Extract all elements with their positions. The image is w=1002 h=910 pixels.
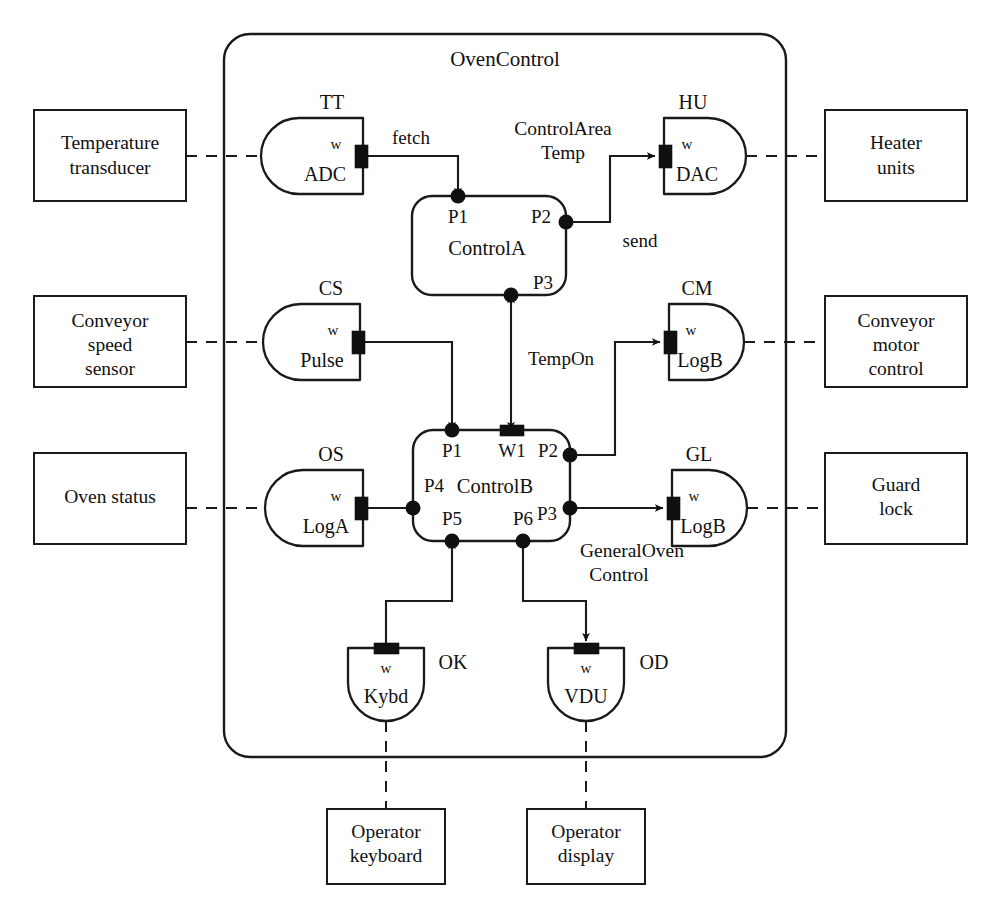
oven-control-diagram: OvenControl Temperature transducer Conve… xyxy=(0,0,1002,910)
port-p2-dot[interactable] xyxy=(563,448,578,463)
external-entity-label-line2: keyboard xyxy=(350,845,423,866)
connection-label-fetch: fetch xyxy=(392,127,430,148)
external-entity-label-line2: lock xyxy=(879,498,913,519)
external-entity-label-line1: Oven status xyxy=(64,486,156,507)
device-module-ok-kybd[interactable]: OK w Kybd xyxy=(348,643,468,721)
port-p2-dot[interactable] xyxy=(559,215,574,230)
control-object-name: ControlA xyxy=(448,237,526,259)
control-object-caption-line1: GeneralOven xyxy=(580,540,684,561)
connection-kybd-to-p5 xyxy=(386,541,452,645)
w-port-marker[interactable] xyxy=(374,643,399,654)
device-module-tt-adc[interactable]: TT w ADC xyxy=(261,91,368,194)
external-entity-heater-units: Heater units xyxy=(825,110,967,201)
system-boundary-label: OvenControl xyxy=(450,47,560,71)
control-object-caption-line2: Control xyxy=(589,564,649,585)
device-module-os-loga[interactable]: OS w LogA xyxy=(265,443,368,546)
device-module-name: LogB xyxy=(680,515,726,538)
device-module-tag: CM xyxy=(681,277,712,299)
port-p1-dot[interactable] xyxy=(451,189,466,204)
port-p5-label: P5 xyxy=(442,508,462,529)
device-module-od-vdu[interactable]: OD w VDU xyxy=(548,643,668,721)
port-p3-dot[interactable] xyxy=(563,501,578,516)
port-p6-label: P6 xyxy=(513,508,533,529)
external-entity-label-line2: display xyxy=(558,845,615,866)
device-module-tag: CS xyxy=(319,277,343,299)
connection-pulse-to-p1 xyxy=(360,342,452,430)
external-entity-label-line3: control xyxy=(868,358,924,379)
port-p6-dot[interactable] xyxy=(516,534,531,549)
device-module-tag: OS xyxy=(318,443,344,465)
w-port-label: w xyxy=(328,322,339,338)
w-port-label: w xyxy=(381,660,392,676)
w-port-label: w xyxy=(331,136,342,152)
external-entity-label-line1: Operator xyxy=(351,821,421,842)
device-module-gl-logb[interactable]: GL w LogB xyxy=(667,443,747,546)
port-p4-dot[interactable] xyxy=(406,501,421,516)
device-module-cm-logb[interactable]: CM w LogB xyxy=(664,277,744,380)
port-p3-label: P3 xyxy=(537,503,557,524)
control-object-caption-line2: Temp xyxy=(541,142,585,163)
w-port-marker[interactable] xyxy=(574,643,599,654)
port-p1-dot[interactable] xyxy=(445,423,460,438)
w-port-marker[interactable] xyxy=(659,145,672,168)
external-entity-label-line1: Conveyor xyxy=(858,310,935,331)
w-port-marker[interactable] xyxy=(667,497,680,520)
port-p2-label: P2 xyxy=(538,440,558,461)
w-port-label: w xyxy=(686,322,697,338)
external-entity-label-line3: sensor xyxy=(85,358,135,379)
port-p1-label: P1 xyxy=(442,440,462,461)
external-entity-box xyxy=(825,110,967,201)
external-entity-oven-status: Oven status xyxy=(34,453,186,544)
device-module-name: DAC xyxy=(676,163,718,185)
control-object-caption-line1: ControlArea xyxy=(514,118,612,139)
device-module-tag: TT xyxy=(320,91,344,113)
w-port-marker[interactable] xyxy=(355,497,368,520)
device-module-tag: OD xyxy=(640,651,669,673)
device-module-cs-pulse[interactable]: CS w Pulse xyxy=(263,277,365,380)
device-module-name: LogB xyxy=(677,349,723,372)
external-entity-temperature-transducer: Temperature transducer xyxy=(34,110,186,201)
connection-p6-to-vdu xyxy=(523,541,586,641)
connection-fetch xyxy=(363,156,458,196)
connection-label-send: send xyxy=(623,230,658,251)
w-port-marker[interactable] xyxy=(355,145,368,168)
w-port-label: w xyxy=(689,488,700,504)
external-entity-label-line1: Conveyor xyxy=(72,310,149,331)
external-entity-operator-keyboard: Operator keyboard xyxy=(327,809,445,884)
port-p5-dot[interactable] xyxy=(445,534,460,549)
device-module-name: LogA xyxy=(303,515,350,538)
w-port-marker[interactable] xyxy=(352,331,365,354)
external-entity-conveyor-motor-control: Conveyor motor control xyxy=(825,296,967,387)
w-port-label: w xyxy=(682,136,693,152)
port-p3-dot[interactable] xyxy=(504,288,519,303)
connection-send xyxy=(566,156,655,222)
port-w1-label: W1 xyxy=(498,440,525,461)
device-module-hu-dac[interactable]: HU w DAC xyxy=(659,91,746,194)
external-entity-label-line1: Temperature xyxy=(61,132,159,153)
external-entity-label-line2: units xyxy=(877,157,915,178)
port-w1-marker[interactable] xyxy=(500,425,524,436)
port-p2-label: P2 xyxy=(531,206,551,227)
port-p1-label: P1 xyxy=(448,206,468,227)
w-port-label: w xyxy=(331,488,342,504)
external-entity-label-line1: Guard xyxy=(872,474,921,495)
diagram-canvas: OvenControl Temperature transducer Conve… xyxy=(0,0,1002,910)
external-entity-label-line2: transducer xyxy=(69,157,151,178)
device-module-name: Pulse xyxy=(300,349,343,371)
control-object-control-a[interactable]: ControlArea Temp P1 P2 ControlA P3 xyxy=(412,118,612,302)
external-entity-label-line1: Heater xyxy=(870,132,922,153)
w-port-marker[interactable] xyxy=(664,331,677,354)
device-module-tag: HU xyxy=(679,91,708,113)
port-p4-label: P4 xyxy=(424,475,445,496)
device-module-tag: OK xyxy=(439,651,468,673)
w-port-label: w xyxy=(581,660,592,676)
connection-label-tempon: TempOn xyxy=(528,348,595,369)
control-object-control-b[interactable]: P1 W1 P2 P4 ControlB P3 P5 P6 GeneralOve… xyxy=(406,423,685,586)
external-entity-label-line1: Operator xyxy=(551,821,621,842)
external-entity-label-line2: motor xyxy=(873,334,920,355)
external-entity-box xyxy=(34,110,186,201)
external-entity-guard-lock: Guard lock xyxy=(825,453,967,544)
external-entity-operator-display: Operator display xyxy=(527,809,645,884)
external-entity-label-line2: speed xyxy=(88,334,133,355)
device-module-name: ADC xyxy=(304,163,346,185)
